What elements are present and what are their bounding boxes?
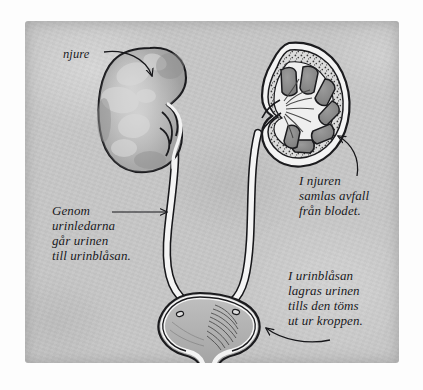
caption-kidney-line-2: samlas avfall — [299, 188, 369, 203]
caption-kidney: I njuren samlas avfall från blodet. — [299, 173, 369, 218]
arrow-to-bladder — [266, 328, 330, 342]
caption-ureter-line-2: urinledarna — [52, 218, 131, 233]
caption-ureter: Genom urinledarna går urinen till urinbl… — [52, 203, 131, 263]
kidney-exterior — [97, 48, 186, 172]
caption-bladder: I urinblåsan lagras urinen tills den töm… — [288, 268, 363, 328]
illustration-canvas: njure Genom urinledarna går urinen till … — [0, 0, 423, 390]
caption-bladder-line-1: I urinblåsan — [288, 268, 363, 283]
ureter-right — [232, 133, 258, 302]
caption-kidney-line-1: I njuren — [299, 173, 369, 188]
caption-ureter-line-4: till urinblåsan. — [52, 248, 131, 263]
kidney-cross-section — [262, 43, 349, 167]
label-kidney: njure — [63, 47, 89, 62]
caption-kidney-line-3: från blodet. — [299, 203, 369, 218]
urethra-tube — [204, 364, 214, 384]
caption-bladder-line-2: lagras urinen — [288, 283, 363, 298]
caption-ureter-line-3: går urinen — [52, 233, 131, 248]
caption-ureter-line-1: Genom — [52, 203, 131, 218]
caption-bladder-line-3: tills den töms — [288, 298, 363, 313]
urinary-bladder — [147, 293, 260, 378]
caption-bladder-line-4: ut ur kroppen. — [288, 313, 363, 328]
